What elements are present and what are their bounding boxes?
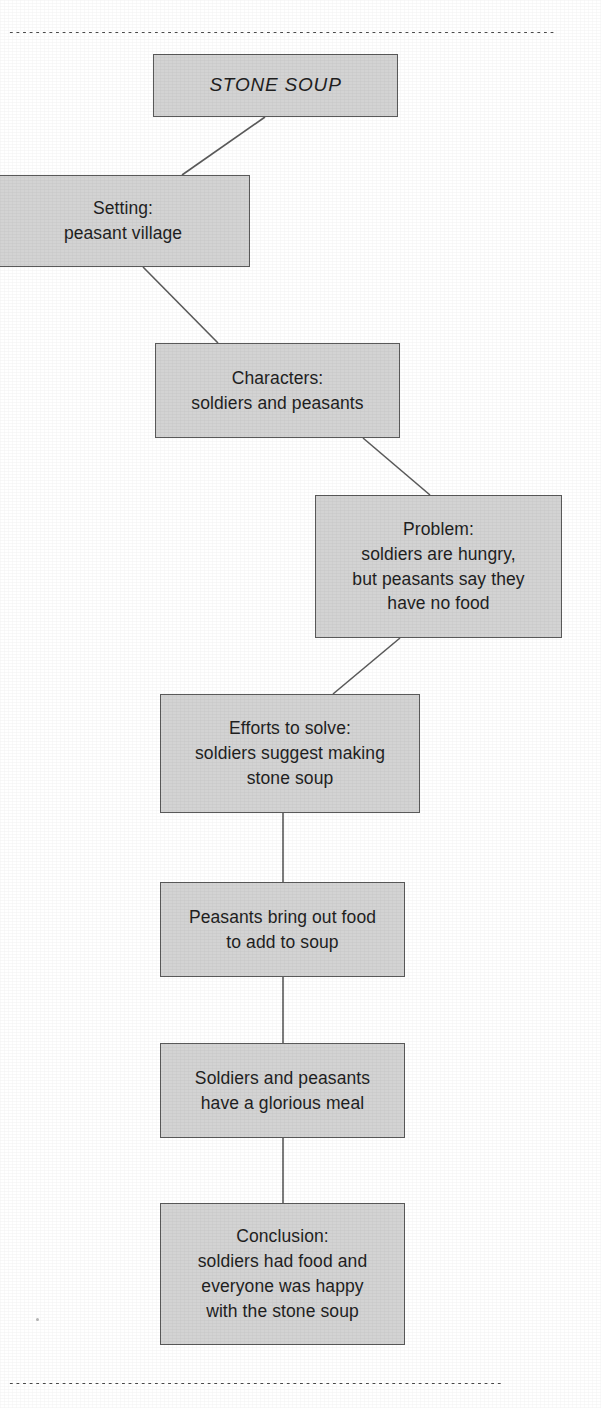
flow-node-text: Peasants bring out foodto add to soup (167, 905, 398, 955)
page-canvas: STONE SOUPSetting:peasant villageCharact… (0, 0, 601, 1408)
flow-node-line: Characters: (162, 366, 393, 391)
flow-node-line: soldiers and peasants (162, 391, 393, 416)
connector-setting-to-characters (143, 267, 218, 343)
flow-node-line: Efforts to solve: (167, 716, 413, 741)
flow-node-line: have no food (322, 591, 555, 616)
flow-node-line: but peasants say they (322, 567, 555, 592)
flow-node-text: STONE SOUP (160, 72, 391, 99)
flow-node-characters: Characters:soldiers and peasants (155, 343, 400, 438)
flow-node-glorious-meal: Soldiers and peasantshave a glorious mea… (160, 1043, 405, 1138)
flow-node-line: have a glorious meal (167, 1091, 398, 1116)
flow-node-line: soldiers are hungry, (322, 542, 555, 567)
scan-speck (36, 1318, 39, 1321)
connector-problem-to-efforts (333, 638, 400, 694)
connector-characters-to-problem (363, 438, 430, 495)
flow-node-problem: Problem:soldiers are hungry,but peasants… (315, 495, 562, 638)
flow-node-text: Efforts to solve:soldiers suggest making… (167, 716, 413, 791)
flow-node-line: with the stone soup (167, 1299, 398, 1324)
flow-node-line: soldiers suggest making (167, 741, 413, 766)
flow-node-text: Characters:soldiers and peasants (162, 366, 393, 416)
flow-node-text: Problem:soldiers are hungry,but peasants… (322, 517, 555, 616)
connector-title-to-setting (182, 117, 265, 175)
flow-node-setting: Setting:peasant village (0, 175, 250, 267)
flow-node-line: Peasants bring out food (167, 905, 398, 930)
flow-node-text: Setting:peasant village (3, 196, 243, 246)
dotted-divider-bottom (8, 1382, 501, 1385)
dotted-divider-top (8, 31, 557, 34)
flow-node-text: Conclusion:soldiers had food andeveryone… (167, 1224, 398, 1323)
flow-node-line: Conclusion: (167, 1224, 398, 1249)
flow-node-line: Setting: (3, 196, 243, 221)
flow-node-line: soldiers had food and (167, 1249, 398, 1274)
flow-node-line: STONE SOUP (160, 72, 391, 99)
flow-node-line: peasant village (3, 221, 243, 246)
flow-node-line: everyone was happy (167, 1274, 398, 1299)
flow-node-efforts: Efforts to solve:soldiers suggest making… (160, 694, 420, 813)
flow-node-peasants-food: Peasants bring out foodto add to soup (160, 882, 405, 977)
flow-node-title: STONE SOUP (153, 54, 398, 117)
flow-node-line: stone soup (167, 766, 413, 791)
flow-node-conclusion: Conclusion:soldiers had food andeveryone… (160, 1203, 405, 1345)
flow-node-text: Soldiers and peasantshave a glorious mea… (167, 1066, 398, 1116)
flow-node-line: Problem: (322, 517, 555, 542)
flow-node-line: Soldiers and peasants (167, 1066, 398, 1091)
cropped-header-text-fragment (150, 0, 450, 3)
flow-node-line: to add to soup (167, 930, 398, 955)
